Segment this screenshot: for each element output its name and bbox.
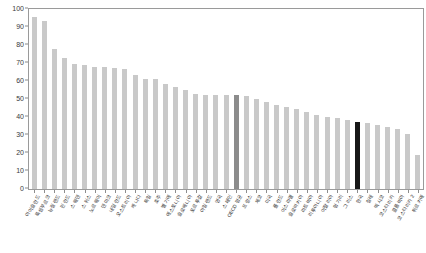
bar[interactable] — [32, 17, 37, 189]
bar[interactable] — [375, 125, 380, 189]
y-axis-tick-label: 20 — [16, 149, 24, 156]
x-axis-tick-mark — [378, 190, 379, 193]
bar[interactable] — [405, 134, 410, 189]
y-axis-tick-label: 100 — [12, 5, 24, 12]
bar[interactable] — [415, 155, 420, 189]
y-axis-tick-label: 80 — [16, 41, 24, 48]
x-axis-tick-mark — [408, 190, 409, 193]
x-axis-tick-mark — [327, 190, 328, 193]
x-axis-tick-mark — [85, 190, 86, 193]
bar[interactable] — [345, 120, 350, 189]
bar[interactable] — [284, 107, 289, 189]
bar[interactable] — [163, 84, 168, 189]
bar[interactable] — [264, 102, 269, 189]
bar[interactable] — [183, 90, 188, 189]
bar[interactable] — [335, 118, 340, 189]
x-axis-tick-mark — [105, 190, 106, 193]
y-axis-tick-label: 10 — [16, 167, 24, 174]
bar[interactable] — [254, 99, 259, 189]
bar[interactable] — [355, 122, 360, 189]
bar[interactable] — [314, 115, 319, 189]
x-axis-tick-label: 한국 — [355, 194, 364, 205]
bar[interactable] — [395, 129, 400, 189]
bar[interactable] — [274, 105, 279, 189]
bar[interactable] — [173, 87, 178, 189]
x-axis-tick-mark — [54, 190, 55, 193]
y-axis-tick-label: 40 — [16, 113, 24, 120]
x-axis-tick-mark — [145, 190, 146, 193]
x-axis-tick-mark — [347, 190, 348, 193]
bar[interactable] — [82, 65, 87, 189]
x-axis-tick-mark — [337, 190, 338, 193]
y-axis-tick-label: 50 — [16, 95, 24, 102]
bar-chart: 0102030405060708090100 아이슬란드룩셈부르크뉴질랜드핀란드… — [0, 0, 426, 253]
x-axis-tick-mark — [246, 190, 247, 193]
bar[interactable] — [122, 69, 127, 189]
bar[interactable] — [72, 64, 77, 189]
x-axis-labels: 아이슬란드룩셈부르크뉴질랜드핀란드스웨덴스위스노르웨이덴마크네덜란드오스트리아캐… — [29, 194, 423, 253]
x-axis-tick-mark — [206, 190, 207, 193]
x-axis-tick-mark — [287, 190, 288, 193]
bar[interactable] — [143, 79, 148, 189]
bar[interactable] — [102, 67, 107, 189]
bar[interactable] — [62, 58, 67, 189]
x-axis-tick-mark — [34, 190, 35, 193]
bar[interactable] — [193, 94, 198, 189]
bar[interactable] — [365, 123, 370, 189]
x-axis-tick-mark — [418, 190, 419, 193]
bar[interactable] — [234, 95, 239, 189]
bar[interactable] — [224, 95, 229, 189]
x-axis-tick-mark — [196, 190, 197, 193]
bar[interactable] — [133, 75, 138, 189]
x-axis-tick-mark — [307, 190, 308, 193]
x-axis-tick-mark — [95, 190, 96, 193]
bar[interactable] — [294, 109, 299, 189]
x-axis-tick-mark — [388, 190, 389, 193]
x-axis-tick-label: 독일 — [143, 194, 152, 205]
y-axis-tick-label: 70 — [16, 59, 24, 66]
x-axis-tick-mark — [317, 190, 318, 193]
x-axis-tick-mark — [135, 190, 136, 193]
y-axis: 0102030405060708090100 — [0, 8, 28, 190]
bar[interactable] — [112, 68, 117, 190]
y-axis-tick-label: 0 — [20, 185, 24, 192]
bar[interactable] — [304, 112, 309, 189]
bar[interactable] — [213, 95, 218, 189]
x-axis-tick-mark — [277, 190, 278, 193]
x-axis-tick-mark — [44, 190, 45, 193]
bar[interactable] — [92, 67, 97, 189]
x-axis-tick-mark — [125, 190, 126, 193]
bar[interactable] — [42, 21, 47, 189]
bars-container — [29, 9, 423, 189]
bar[interactable] — [52, 49, 57, 189]
bar[interactable] — [385, 127, 390, 189]
y-axis-tick-label: 30 — [16, 131, 24, 138]
bar[interactable] — [325, 117, 330, 189]
bar[interactable] — [153, 79, 158, 189]
bar[interactable] — [203, 95, 208, 190]
y-axis-tick-label: 60 — [16, 77, 24, 84]
bar[interactable] — [244, 96, 249, 189]
x-axis-tick-mark — [297, 190, 298, 193]
x-axis-tick-label: 체코 — [254, 194, 263, 205]
x-axis-tick-mark — [236, 190, 237, 193]
x-axis-tick-mark — [186, 190, 187, 193]
x-axis-tick-mark — [115, 190, 116, 193]
x-axis-tick-mark — [216, 190, 217, 193]
x-axis-tick-mark — [226, 190, 227, 193]
x-axis-tick-mark — [398, 190, 399, 193]
y-axis-tick-label: 90 — [16, 23, 24, 30]
